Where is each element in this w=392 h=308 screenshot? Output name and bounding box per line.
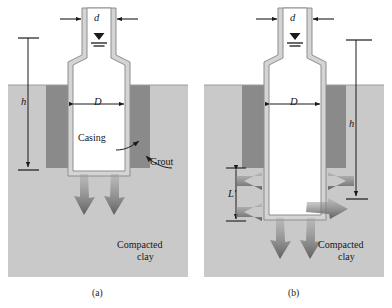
- soil-label-line1-b: Compacted: [318, 240, 364, 251]
- grout-right-b: [324, 85, 346, 168]
- soil-label-line2-a: clay: [137, 252, 154, 263]
- grout-right-a: [128, 85, 150, 168]
- panel-caption-b: (b): [288, 288, 299, 298]
- dim-label-D-a: D: [94, 96, 102, 107]
- dim-label-d-a: d: [94, 12, 99, 23]
- soil-label-line2-b: clay: [338, 252, 355, 263]
- dim-label-h-a: h: [21, 96, 26, 107]
- grout-left-b: [242, 85, 264, 168]
- panel-b: [204, 8, 384, 277]
- soil-label-line1-a: Compacted: [117, 240, 163, 251]
- casing-label-a: Casing: [78, 133, 106, 144]
- dim-label-h-b: h: [349, 118, 354, 129]
- figure-svg: [0, 0, 392, 308]
- panel-caption-a: (a): [92, 288, 103, 298]
- dim-label-d-b: d: [290, 12, 295, 23]
- figure-container: d D h Casing Grout Compacted clay (a) d …: [0, 0, 392, 308]
- dim-label-D-b: D: [290, 96, 298, 107]
- dim-label-Lprime-b: L′: [228, 188, 236, 199]
- grout-left-a: [46, 85, 68, 168]
- grout-label-a: Grout: [150, 157, 173, 168]
- casing-interior-a: [73, 8, 125, 171]
